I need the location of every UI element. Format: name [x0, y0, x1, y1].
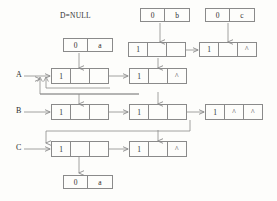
- node-cell: 0: [64, 176, 88, 188]
- node-cell: [149, 69, 167, 83]
- node-cell: [71, 69, 89, 83]
- node-cell: [167, 43, 185, 56]
- node-cell: 1: [130, 69, 149, 83]
- node-cell: [71, 142, 89, 156]
- node-cell: [149, 105, 167, 119]
- node-row-c-col1: 1: [51, 141, 109, 157]
- node-cell: [168, 105, 186, 119]
- node-cell: 0: [141, 9, 165, 21]
- node-cell: c: [230, 9, 254, 21]
- connector-layer: [0, 0, 277, 201]
- row-label-b: B: [16, 107, 21, 115]
- node-row0-col2: 1 ^: [199, 42, 257, 57]
- node-cell: 0: [64, 39, 88, 51]
- node-cell: [90, 69, 108, 83]
- node-cell: ^: [225, 105, 243, 119]
- node-cell: ^: [238, 43, 256, 56]
- node-cell: ^: [168, 69, 186, 83]
- node-row-b-col1: 1: [51, 104, 109, 120]
- node-cell: [149, 142, 167, 156]
- node-cell: 1: [206, 105, 225, 119]
- node-row-c-col2: 1 ^: [129, 141, 187, 157]
- node-cell: 0: [206, 9, 230, 21]
- node-cell: 1: [52, 142, 71, 156]
- node-row-b-col3: 1 ^ ^: [205, 104, 263, 120]
- row-label-c: C: [16, 144, 21, 152]
- node-cell: 1: [130, 105, 149, 119]
- node-cell: 1: [200, 43, 219, 56]
- node-row0-col1: 1: [128, 42, 186, 57]
- head-node-0-c: 0 c: [205, 8, 255, 22]
- node-row-a-col1: 1: [51, 68, 109, 84]
- node-cell: 1: [129, 43, 148, 56]
- diagram-canvas: D=NULL A B C 0 a 0 b 0 c 1 1 ^ 1 1 ^: [0, 0, 277, 201]
- node-cell: b: [165, 9, 189, 21]
- node-cell: [71, 105, 89, 119]
- node-cell: [219, 43, 237, 56]
- node-cell: 1: [130, 142, 149, 156]
- node-cell: ^: [168, 142, 186, 156]
- node-row-a-col2: 1 ^: [129, 68, 187, 84]
- node-cell: [90, 142, 108, 156]
- head-node-0-a-lower: 0 a: [63, 175, 113, 189]
- node-cell: [148, 43, 166, 56]
- annotation-d-null: D=NULL: [60, 11, 91, 20]
- node-row-b-col2: 1: [129, 104, 187, 120]
- row-label-a: A: [16, 71, 22, 79]
- node-cell: a: [88, 176, 112, 188]
- node-cell: [90, 105, 108, 119]
- head-node-0-a-upper: 0 a: [63, 38, 113, 52]
- node-cell: ^: [244, 105, 262, 119]
- head-node-0-b: 0 b: [140, 8, 190, 22]
- node-cell: a: [88, 39, 112, 51]
- node-cell: 1: [52, 105, 71, 119]
- node-cell: 1: [52, 69, 71, 83]
